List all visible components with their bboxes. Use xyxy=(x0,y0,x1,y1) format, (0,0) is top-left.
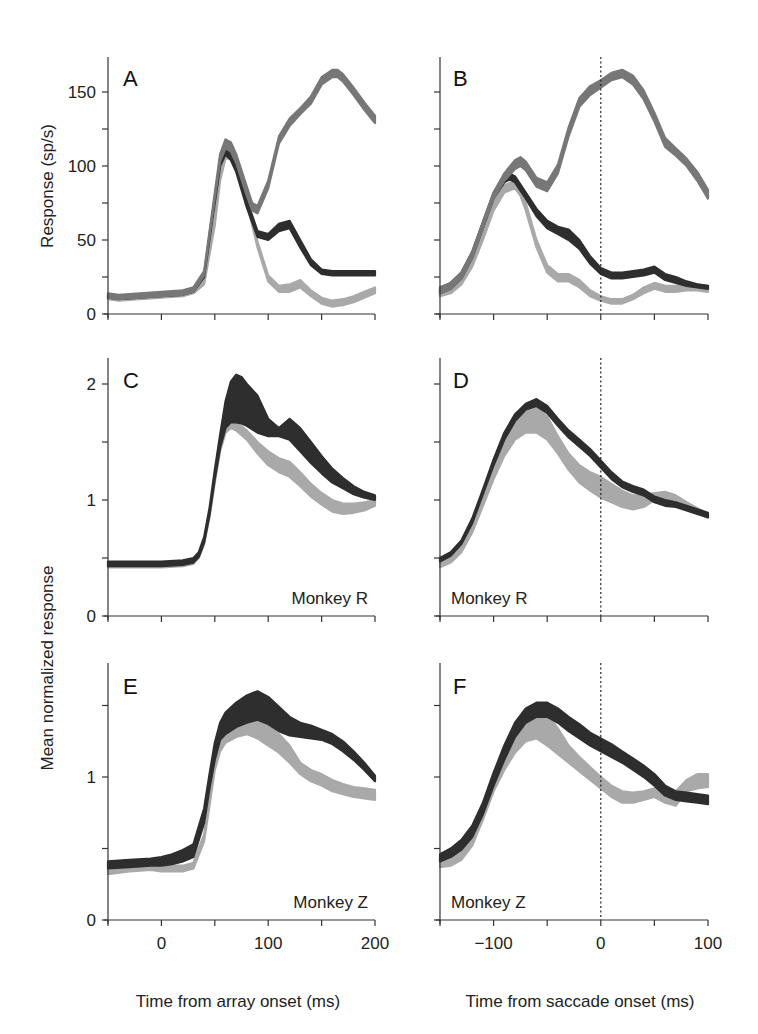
band-light xyxy=(440,407,708,567)
band-dark xyxy=(108,375,375,566)
band-light xyxy=(108,421,375,567)
panel-letter: E xyxy=(123,674,138,699)
panel-b: B xyxy=(434,57,708,320)
xlabel-saccade-onset: Time from saccade onset (ms) xyxy=(466,992,695,1011)
y-tick-label: 1 xyxy=(87,768,96,787)
panel-letter: F xyxy=(453,674,466,699)
ylabel-normalized: Mean normalized response xyxy=(38,565,57,770)
x-tick-label: 0 xyxy=(157,934,166,953)
band-dark xyxy=(440,703,708,862)
x-tick-label: 100 xyxy=(694,934,722,953)
panel-letter: C xyxy=(123,368,139,393)
y-tick-label: 0 xyxy=(87,911,96,930)
panel-c: 012CMonkey R xyxy=(87,358,375,626)
ylabel-response: Response (sp/s) xyxy=(38,124,57,248)
y-tick-label: 1 xyxy=(87,491,96,510)
panel-d: DMonkey R xyxy=(434,358,708,622)
panel-e: 010100200EMonkey Z xyxy=(87,663,390,953)
panel-f: −1000100FMonkey Z xyxy=(434,663,722,953)
y-tick-label: 100 xyxy=(68,157,96,176)
x-tick-label: −100 xyxy=(474,934,512,953)
x-tick-label: 0 xyxy=(596,934,605,953)
x-tick-label: 200 xyxy=(361,934,389,953)
band-dark xyxy=(440,399,708,561)
panel-letter: A xyxy=(123,66,138,91)
x-tick-label: 100 xyxy=(254,934,282,953)
panels-group: 050100150AB012CMonkey RDMonkey R01010020… xyxy=(68,57,723,953)
panel-a: 050100150A xyxy=(68,57,375,324)
y-tick-label: 150 xyxy=(68,83,96,102)
monkey-label: Monkey R xyxy=(291,589,368,608)
band-medium xyxy=(440,70,708,293)
panel-letter: B xyxy=(453,66,468,91)
y-tick-label: 50 xyxy=(77,231,96,250)
panel-letter: D xyxy=(453,368,469,393)
y-tick-label: 2 xyxy=(87,375,96,394)
xlabel-array-onset: Time from array onset (ms) xyxy=(136,992,340,1011)
y-tick-label: 0 xyxy=(87,305,96,324)
monkey-label: Monkey R xyxy=(451,589,528,608)
figure-canvas: 050100150AB012CMonkey RDMonkey R01010020… xyxy=(0,0,758,1034)
monkey-label: Monkey Z xyxy=(293,893,368,912)
monkey-label: Monkey Z xyxy=(451,893,526,912)
y-tick-label: 0 xyxy=(87,607,96,626)
